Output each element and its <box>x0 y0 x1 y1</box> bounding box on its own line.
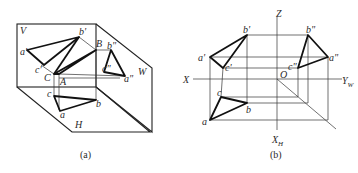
label-b: b <box>246 104 251 115</box>
label-b-double-prime: b" <box>107 40 117 51</box>
triangle-v-projection <box>27 37 79 65</box>
label-a-prime: a' <box>20 46 28 57</box>
label-c-prime: c' <box>35 64 42 75</box>
label-origin: O <box>280 69 287 80</box>
label-b-prime: b' <box>79 26 87 37</box>
label-point-A: A <box>59 76 67 87</box>
label-v-plane: V <box>20 25 28 36</box>
label-c-double-prime: c" <box>102 63 111 74</box>
projection-diagram: V H W b' a' c' B C A c b a b" c" a" (a) <box>0 0 358 173</box>
label-a-prime: a' <box>198 52 206 63</box>
45-degree-line <box>277 79 336 129</box>
triangle-w-projection <box>298 35 328 68</box>
figure-b: Z X O YW XH b' a' c' b" a" c" c b a (b) <box>182 8 355 161</box>
figure-a: V H W b' a' c' B C A c b a b" c" a" (a) <box>17 24 152 161</box>
label-yw-axis: YW <box>342 75 355 89</box>
label-z-axis: Z <box>276 8 282 19</box>
h-plane <box>17 87 150 132</box>
label-b-double-prime: b" <box>306 24 316 35</box>
proj-line <box>79 37 96 50</box>
label-a: a <box>60 109 65 120</box>
caption-b: (b) <box>270 149 282 161</box>
label-c: c <box>47 88 52 99</box>
triangle-h-projection <box>210 97 247 120</box>
label-point-B: B <box>96 38 102 49</box>
label-c-prime: c' <box>225 62 232 73</box>
label-a-double-prime: a" <box>124 73 134 84</box>
label-h-plane: H <box>74 119 83 130</box>
caption-a: (a) <box>80 149 91 161</box>
label-a: a <box>202 116 207 127</box>
label-b-prime: b' <box>243 24 251 35</box>
label-yh-axis: XH <box>271 134 284 148</box>
label-c: c <box>217 87 222 98</box>
label-point-C: C <box>44 72 51 83</box>
label-x-axis: X <box>182 74 190 85</box>
label-b: b <box>96 98 101 109</box>
label-c-double-prime: c" <box>288 61 297 72</box>
label-w-plane: W <box>138 66 148 77</box>
triangle-abc <box>54 50 96 74</box>
label-a-double-prime: a" <box>329 52 339 63</box>
